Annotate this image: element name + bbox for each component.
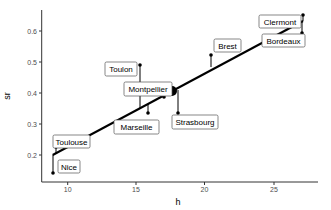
scatter-chart: 0.6 0.5 0.4 0.3 0.2 10 15 20 25 h sr — [0, 0, 331, 210]
x-ticks: 10 15 20 25 — [64, 182, 278, 193]
svg-text:Nice: Nice — [61, 163, 78, 172]
y-tick-label: 0.2 — [27, 152, 37, 159]
point-brest — [209, 53, 213, 57]
label-marseille: Marseille — [114, 120, 159, 134]
svg-text:Marseille: Marseille — [120, 123, 153, 132]
x-tick-label: 10 — [64, 186, 72, 193]
y-axis-title: sr — [2, 92, 12, 100]
label-montpellier: Montpellier — [124, 82, 172, 96]
y-ticks: 0.6 0.5 0.4 0.3 0.2 — [27, 28, 41, 159]
label-bordeaux: Bordeaux — [262, 34, 305, 47]
svg-text:Bordeaux: Bordeaux — [266, 37, 300, 46]
x-tick-label: 25 — [270, 186, 278, 193]
label-nice: Nice — [58, 160, 80, 173]
y-tick-label: 0.6 — [27, 28, 37, 35]
label-clermont: Clermont — [259, 15, 301, 28]
svg-text:Clermont: Clermont — [264, 18, 297, 27]
point-strasbourg — [176, 111, 180, 115]
svg-text:Montpellier: Montpellier — [128, 85, 167, 94]
y-tick-label: 0.3 — [27, 121, 37, 128]
y-tick-label: 0.5 — [27, 59, 37, 66]
point-labels: Nice Toulouse Toulon Montpellier Marseil… — [53, 15, 305, 173]
svg-text:Toulouse: Toulouse — [55, 138, 88, 147]
point-marseille — [146, 111, 150, 115]
label-toulouse: Toulouse — [53, 135, 90, 148]
x-tick-label: 15 — [132, 186, 140, 193]
label-strasbourg: Strasbourg — [172, 115, 218, 129]
x-axis-title: h — [175, 197, 180, 207]
svg-text:Toulon: Toulon — [109, 65, 133, 74]
point-nice — [51, 171, 55, 175]
svg-text:Brest: Brest — [218, 42, 237, 51]
label-brest: Brest — [214, 39, 241, 52]
svg-text:Strasbourg: Strasbourg — [175, 118, 214, 127]
x-tick-label: 20 — [201, 186, 209, 193]
point-clermont — [301, 13, 305, 17]
y-tick-label: 0.4 — [27, 90, 37, 97]
label-toulon: Toulon — [105, 62, 137, 76]
point-toulon — [138, 63, 142, 67]
